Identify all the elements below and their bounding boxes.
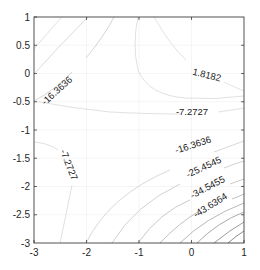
contour-label: -7.2727 bbox=[176, 106, 208, 117]
x-tick-label: 0 bbox=[189, 247, 195, 258]
x-tick-label: 1 bbox=[241, 247, 247, 258]
x-axis-tick-labels: -3 -2 -1 0 1 bbox=[30, 247, 248, 258]
x-tick-label: -3 bbox=[30, 247, 39, 258]
y-tick-label: -1 bbox=[21, 125, 30, 136]
y-tick-label: -1.5 bbox=[13, 153, 31, 164]
y-tick-label: -2.5 bbox=[13, 209, 31, 220]
x-tick-label: -1 bbox=[135, 247, 144, 258]
contour-label: -16.3636 bbox=[173, 134, 212, 156]
y-tick-label: 0.5 bbox=[16, 40, 30, 51]
contour-label: 1.8182 bbox=[191, 66, 222, 84]
y-tick-label: -3 bbox=[21, 238, 30, 249]
y-tick-label: -2 bbox=[21, 181, 30, 192]
contour-labels: -16.3636 1.8182 -7.2727 -16.3636 -25.454… bbox=[39, 66, 229, 220]
y-axis-tick-labels: 1 0.5 0 -0.5 -1 -1.5 -2 -2.5 -3 bbox=[13, 12, 31, 249]
contour-chart: -16.3636 1.8182 -7.2727 -16.3636 -25.454… bbox=[0, 0, 260, 270]
y-tick-label: 0 bbox=[24, 68, 30, 79]
y-tick-label: -0.5 bbox=[13, 96, 31, 107]
contour-label: -7.2727 bbox=[58, 148, 80, 182]
y-tick-label: 1 bbox=[24, 12, 30, 23]
x-tick-label: -2 bbox=[82, 247, 91, 258]
